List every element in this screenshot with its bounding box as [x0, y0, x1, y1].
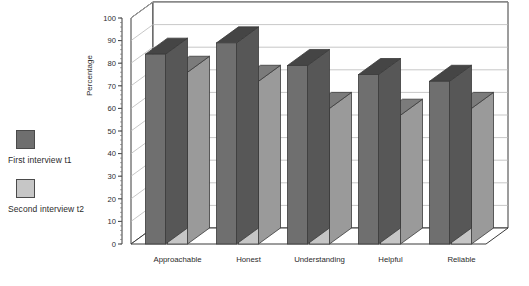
bar-side-face: [450, 65, 472, 244]
y-axis-tick-label: 100: [103, 14, 116, 23]
bar-side-face: [259, 65, 281, 244]
bar-side-face: [401, 99, 423, 244]
x-axis-category-label: Honest: [236, 255, 262, 264]
y-axis-tick-label: 60: [108, 104, 116, 113]
bar-front-face: [430, 81, 450, 244]
y-axis-tick-label: 0: [112, 240, 116, 249]
bar-side-face: [166, 38, 188, 244]
y-axis-tick-label: 30: [108, 172, 116, 181]
bar: [146, 38, 188, 244]
bar: [430, 65, 472, 244]
bar: [288, 49, 330, 244]
x-axis-category-label: Approachable: [153, 255, 201, 264]
bar: [359, 59, 401, 245]
y-axis-tick-label: 80: [108, 59, 116, 68]
x-axis-category-label: Reliable: [447, 255, 475, 264]
bar-front-face: [217, 43, 237, 244]
bar-side-face: [330, 92, 352, 244]
bar-side-face: [237, 27, 259, 244]
y-axis-tick-label: 20: [108, 195, 116, 204]
bar-side-face: [188, 56, 210, 244]
bar-front-face: [288, 65, 308, 244]
bar-side-face: [308, 49, 330, 244]
bar: [217, 27, 259, 244]
bar-front-face: [146, 54, 166, 244]
bar-side-face: [379, 59, 401, 245]
y-axis-tick-label: 10: [108, 217, 116, 226]
x-axis-category-label: Helpful: [378, 255, 403, 264]
y-axis-tick-label: 90: [108, 36, 116, 45]
bar-side-face: [472, 92, 494, 244]
x-axis-category-label: Understanding: [294, 255, 345, 264]
y-axis-tick-label: 70: [108, 82, 116, 91]
y-axis-tick-label: 50: [108, 127, 116, 136]
chart-screenshot: First interview t1 Second interview t2 P…: [0, 0, 529, 286]
bar-front-face: [359, 75, 379, 245]
bar-chart-plot: 0102030405060708090100ApproachableHonest…: [0, 0, 529, 286]
y-axis-tick-label: 40: [108, 149, 116, 158]
